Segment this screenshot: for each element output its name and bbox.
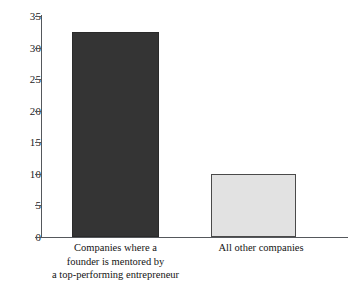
y-tick-row: 35 bbox=[0, 16, 41, 17]
y-tick-row: 15 bbox=[0, 142, 41, 143]
y-tick-mark bbox=[35, 174, 41, 175]
bar-mentored-companies[interactable] bbox=[72, 32, 159, 237]
y-tick-row: 20 bbox=[0, 111, 41, 112]
y-axis-line bbox=[41, 15, 42, 238]
x-axis-label-mentored-companies: Companies where a founder is mentored by… bbox=[28, 241, 203, 282]
y-tick-mark bbox=[35, 111, 41, 112]
x-axis-line bbox=[41, 237, 348, 238]
y-tick-mark bbox=[35, 16, 41, 17]
y-tick-row: 30 bbox=[0, 48, 41, 49]
y-tick-row: 0 bbox=[0, 237, 41, 238]
plot-area: 35 30 25 20 15 10 5 0 bbox=[0, 0, 359, 293]
y-tick-mark bbox=[35, 142, 41, 143]
y-tick-mark bbox=[35, 205, 41, 206]
y-tick-row: 10 bbox=[0, 174, 41, 175]
y-tick-mark bbox=[35, 48, 41, 49]
y-tick-row: 5 bbox=[0, 205, 41, 206]
bar-chart: 35 30 25 20 15 10 5 0 bbox=[0, 0, 359, 293]
y-tick-row: 25 bbox=[0, 79, 41, 80]
x-axis-label-all-other-companies: All other companies bbox=[196, 241, 326, 255]
y-tick-mark bbox=[35, 79, 41, 80]
bar-all-other-companies[interactable] bbox=[211, 174, 296, 237]
